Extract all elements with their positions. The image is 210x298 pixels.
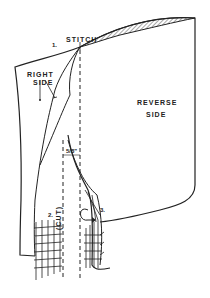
step-2-label: 2.	[48, 212, 53, 218]
reverse-side-panel	[80, 18, 195, 222]
right-side-label-line1: RIGHT	[27, 71, 54, 79]
step-3-label: 3.	[100, 207, 105, 213]
cut-label: (CUT)	[55, 206, 62, 230]
reverse-side-label-line2: SIDE	[146, 111, 166, 119]
step-1-label: 1.	[52, 42, 57, 48]
stitch-label: STITCH	[66, 36, 97, 44]
seam-allowance-label: 5/8"	[66, 148, 77, 154]
right-side-label-line2: SIDE	[33, 79, 53, 87]
garment-diagram	[0, 0, 210, 298]
curved-arrow-icon	[81, 209, 93, 220]
reverse-side-label-line1: REVERSE	[137, 99, 177, 107]
